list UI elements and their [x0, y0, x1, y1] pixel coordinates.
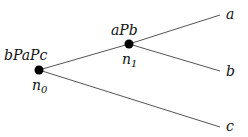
node-n1-preference-label: aPb — [111, 22, 138, 38]
edge-n0-c — [39, 70, 220, 127]
node-n1-name-label: n1 — [122, 51, 137, 69]
node-n0-name-label: n0 — [32, 77, 48, 95]
edge-n1-a — [129, 15, 220, 44]
node-n0 — [35, 66, 44, 75]
diagram-svg: bPaPc n0 aPb n1 a b c — [0, 0, 248, 137]
leaf-b-label: b — [226, 63, 235, 79]
edge-n0-n1 — [39, 44, 129, 70]
edge-n1-b — [129, 44, 220, 71]
tree-diagram: bPaPc n0 aPb n1 a b c — [0, 0, 248, 137]
leaf-c-label: c — [226, 118, 234, 134]
node-n0-preference-label: bPaPc — [4, 47, 48, 63]
node-n1 — [125, 40, 134, 49]
leaf-a-label: a — [226, 6, 234, 22]
